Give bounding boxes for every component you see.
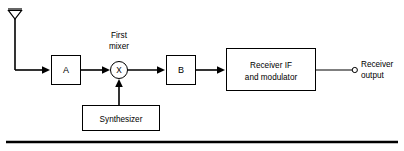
wire-if-to-output	[316, 67, 358, 72]
block-a-label: A	[63, 65, 69, 75]
block-diagram: A First mixer X B	[0, 0, 404, 151]
block-a: A	[52, 56, 81, 85]
receiver-output-label: Receiver output	[361, 60, 394, 80]
receiver-if-label-line1: Receiver IF	[250, 61, 292, 70]
wire-b-to-if	[196, 66, 226, 74]
first-mixer-symbol: X	[111, 62, 128, 79]
wire-antenna-to-a	[15, 66, 50, 74]
figure-container: A First mixer X B	[0, 0, 404, 151]
wire-synthesizer-to-mixer	[115, 79, 123, 106]
first-mixer-caption-line1: First	[111, 31, 128, 40]
mixer-x-label: X	[116, 66, 122, 75]
receiver-output-label-line2: output	[361, 71, 384, 80]
wire-mixer-to-b	[128, 66, 166, 74]
synthesizer-label: Synthesizer	[100, 115, 143, 124]
first-mixer-caption-line2: mixer	[109, 42, 129, 51]
synthesizer-block: Synthesizer	[83, 106, 160, 131]
antenna-icon	[8, 9, 22, 70]
block-b: B	[167, 56, 196, 85]
receiver-output-label-line1: Receiver	[361, 60, 394, 69]
first-mixer-caption: First mixer	[109, 31, 129, 51]
receiver-if-label-line2: and modulator	[245, 73, 298, 82]
block-b-label: B	[178, 65, 184, 75]
wire-a-to-mixer	[81, 66, 111, 74]
receiver-if-block: Receiver IF and modulator	[227, 49, 316, 91]
